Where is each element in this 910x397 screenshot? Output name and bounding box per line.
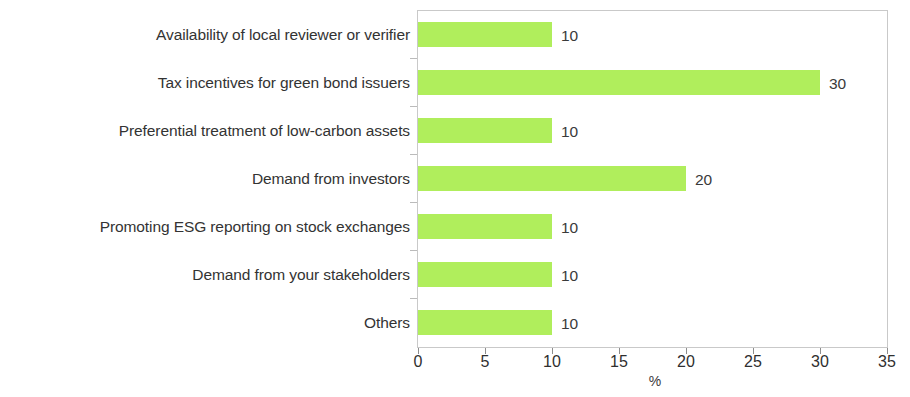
- y-axis-tick: [410, 106, 417, 107]
- bar-value-labels: 10301020101010: [418, 11, 898, 347]
- x-axis-title: %: [0, 374, 910, 388]
- y-axis-tick: [410, 298, 417, 299]
- category-label: Availability of local reviewer or verifi…: [0, 27, 410, 43]
- x-axis-tick-label: 0: [414, 354, 423, 370]
- y-axis-tick: [410, 250, 417, 251]
- category-label: Others: [0, 315, 410, 331]
- category-label: Demand from your stakeholders: [0, 267, 410, 283]
- x-axis-tick-label: 25: [744, 354, 762, 370]
- bar-value-label: 10: [561, 220, 578, 236]
- y-axis-tick: [410, 58, 417, 59]
- bar-value-label: 10: [561, 316, 578, 332]
- horizontal-bar-chart: Availability of local reviewer or verifi…: [0, 0, 910, 397]
- x-axis-tick-label: 10: [543, 354, 561, 370]
- category-label: Preferential treatment of low-carbon ass…: [0, 123, 410, 139]
- category-label: Tax incentives for green bond issuers: [0, 75, 410, 91]
- bar-value-label: 10: [561, 28, 578, 44]
- y-axis-tick: [410, 154, 417, 155]
- x-axis-tick-label: 30: [811, 354, 829, 370]
- category-label: Promoting ESG reporting on stock exchang…: [0, 219, 410, 235]
- category-axis-labels: Availability of local reviewer or verifi…: [0, 10, 410, 348]
- x-axis-tick-label: 20: [677, 354, 695, 370]
- x-axis-tick-label: 15: [610, 354, 628, 370]
- x-axis-tick-label: 5: [481, 354, 490, 370]
- bar-value-label: 10: [561, 124, 578, 140]
- x-axis-tick-label: 35: [878, 354, 896, 370]
- x-axis-title-text: %: [649, 373, 661, 389]
- y-axis-tick: [410, 202, 417, 203]
- bar-value-label: 30: [829, 76, 846, 92]
- bar-value-label: 10: [561, 268, 578, 284]
- bar-value-label: 20: [695, 172, 712, 188]
- category-label: Demand from investors: [0, 171, 410, 187]
